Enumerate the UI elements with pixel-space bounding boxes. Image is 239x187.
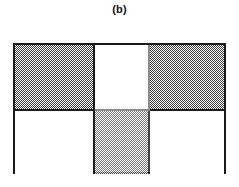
- grid-cell-r2c3: [150, 111, 224, 174]
- figure-container: (b): [0, 0, 239, 187]
- grid-cell-r2c2: [95, 111, 150, 174]
- grid-cell-r1c1: [15, 45, 95, 111]
- grid-cells: [15, 45, 224, 172]
- shaded-grid-figure: [13, 43, 226, 174]
- grid-cell-r1c3: [150, 45, 224, 111]
- grid-cell-r2c1: [15, 111, 95, 174]
- figure-caption: (b): [0, 3, 239, 16]
- grid-cell-r1c2: [95, 45, 150, 111]
